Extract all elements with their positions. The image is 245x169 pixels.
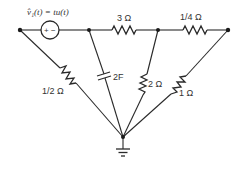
node-right <box>226 28 230 32</box>
wire-r12-ground <box>76 83 123 137</box>
resistor-3ohm <box>112 26 136 34</box>
wire-node3-r2 <box>147 30 158 74</box>
voltage-source: + − <box>41 21 59 39</box>
source-plus-sign: + <box>44 26 49 35</box>
label-2F: 2F <box>113 72 124 82</box>
wire-right-r1 <box>186 30 228 76</box>
wire-r1-ground <box>123 94 171 137</box>
wire-node2-cap <box>89 30 104 74</box>
node-2 <box>87 28 91 32</box>
wire-left-r12 <box>20 30 60 68</box>
source-minus-sign: − <box>51 26 56 35</box>
label-half-ohm: 1/2 Ω <box>42 86 64 96</box>
resistor-quarter-ohm <box>183 26 207 34</box>
ground-icon <box>116 149 130 156</box>
resistor-half-ohm <box>60 66 76 84</box>
circuit-diagram: + − v̂₁(t) = tu(t) 3 Ω 1/4 Ω 1/2 Ω 2F 2 … <box>0 0 245 169</box>
capacitor-plate-2 <box>98 76 111 80</box>
label-2ohm: 2 Ω <box>148 79 163 89</box>
label-3ohm: 3 Ω <box>117 13 132 23</box>
wire-r2-ground <box>123 95 143 137</box>
label-quarter-ohm: 1/4 Ω <box>180 12 202 22</box>
node-ground <box>121 135 125 139</box>
label-1ohm: 1 Ω <box>179 88 194 98</box>
node-3 <box>156 28 160 32</box>
wire-cap-ground <box>105 78 123 137</box>
source-label: v̂₁(t) = tu(t) <box>27 7 69 17</box>
node-left <box>18 28 22 32</box>
resistor-2ohm <box>139 74 147 95</box>
